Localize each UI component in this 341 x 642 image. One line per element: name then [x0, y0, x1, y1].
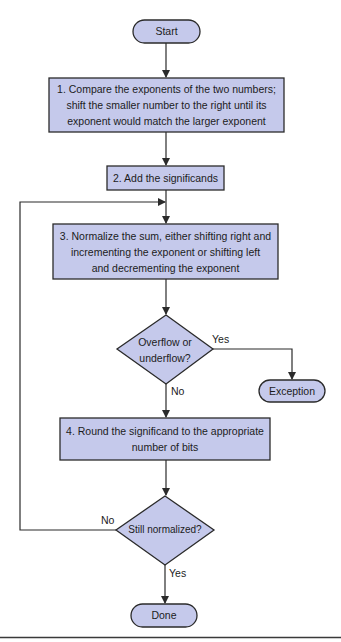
step1-line-1: 1. Compare the exponents of the two numb… [49, 81, 284, 97]
step1-line-3: exponent would match the larger exponent [49, 113, 284, 129]
decision1-label: Overflow or underflow? [117, 334, 213, 366]
step1-line-2: shift the smaller number to the right un… [49, 97, 284, 113]
step3-line-2: incrementing the exponent or shifting le… [53, 244, 278, 260]
start-label: Start [133, 23, 200, 39]
step3-label: 3. Normalize the sum, either shifting ri… [53, 228, 278, 276]
step3-line-1: 3. Normalize the sum, either shifting ri… [53, 228, 278, 244]
decision2-label: Still normalized? [116, 522, 214, 538]
step1-label: 1. Compare the exponents of the two numb… [49, 81, 284, 129]
exception-label: Exception [259, 383, 325, 399]
decision1-line-1: Overflow or [117, 334, 213, 350]
decision1-yes-label: Yes [212, 333, 229, 345]
decision2-no-label: No [101, 514, 114, 526]
step2-label: 2. Add the significands [107, 170, 224, 186]
arrow-decision1-yes [213, 349, 292, 379]
done-label: Done [131, 607, 197, 623]
decision1-line-2: underflow? [117, 350, 213, 366]
step4-line-2: number of bits [60, 439, 270, 455]
decision2-yes-label: Yes [169, 567, 186, 579]
step4-label: 4. Round the significand to the appropri… [60, 423, 270, 455]
step4-line-1: 4. Round the significand to the appropri… [60, 423, 270, 439]
step3-line-3: and decrementing the exponent [53, 260, 278, 276]
decision1-no-label: No [171, 385, 184, 397]
